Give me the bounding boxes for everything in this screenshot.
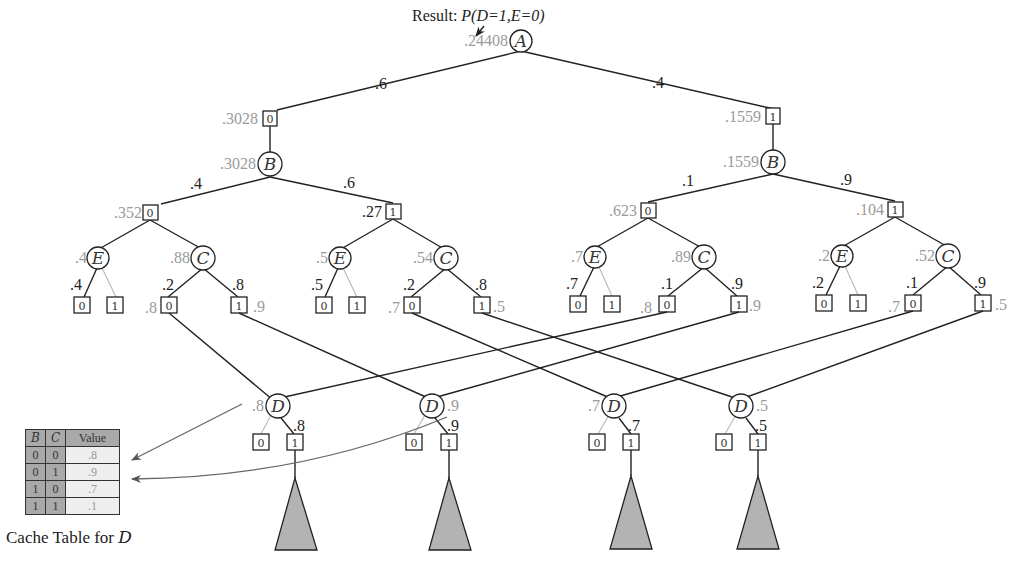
svg-text:E: E <box>91 248 105 268</box>
b-node-left: B .3028 .4 .6 <box>161 152 393 204</box>
svg-text:.7: .7 <box>628 417 640 434</box>
a-branch-1: 1 .1559 <box>725 108 780 150</box>
svg-text:0: 0 <box>594 437 601 450</box>
svg-text:.8: .8 <box>252 397 264 414</box>
svg-text:.7: .7 <box>388 299 400 316</box>
b-branch-box-3: 1 .104 E .2 .2 0 1 C .52 .1 .9 0 .7 1 .5 <box>812 201 1007 315</box>
svg-text:0: 0 <box>166 300 173 313</box>
svg-text:0: 0 <box>258 437 265 450</box>
svg-text:.7: .7 <box>588 397 600 414</box>
svg-text:0: 0 <box>321 300 328 313</box>
svg-text:.8: .8 <box>145 299 157 316</box>
svg-text:.8: .8 <box>475 276 487 293</box>
svg-text:C: C <box>196 248 209 268</box>
cache-table-row: 0 1 .9 <box>26 464 120 481</box>
edge-a0-weight: .6 <box>375 75 387 92</box>
svg-text:.1: .1 <box>906 274 918 291</box>
cache-table-caption: Cache Table for D <box>6 527 132 548</box>
merge-edges <box>169 311 983 400</box>
svg-text:.24408: .24408 <box>464 32 508 49</box>
svg-text:.104: .104 <box>856 201 884 218</box>
svg-text:.27: .27 <box>362 203 382 220</box>
svg-text:.9: .9 <box>447 417 459 434</box>
svg-text:0: 0 <box>575 299 582 312</box>
svg-text:E: E <box>333 248 347 268</box>
d-node-3: D .5 .5 0 1 <box>716 394 779 549</box>
svg-text:.623: .623 <box>609 202 637 219</box>
svg-text:B: B <box>766 152 780 172</box>
svg-text:.9: .9 <box>749 297 761 314</box>
svg-text:.9: .9 <box>974 274 986 291</box>
svg-text:.89: .89 <box>671 248 691 265</box>
svg-text:.6: .6 <box>343 174 355 191</box>
svg-text:.4: .4 <box>190 175 202 192</box>
cache-table-row: 1 1 .1 <box>26 498 120 515</box>
svg-text:.8: .8 <box>232 276 244 293</box>
svg-text:.9: .9 <box>253 298 265 315</box>
svg-text:1: 1 <box>354 300 361 313</box>
svg-text:.5: .5 <box>316 249 328 266</box>
svg-text:.7: .7 <box>571 248 583 265</box>
svg-text:.8: .8 <box>640 299 652 316</box>
svg-text:0: 0 <box>910 298 917 311</box>
svg-text:1: 1 <box>980 298 987 311</box>
d-node-0: D .8 .8 0 1 <box>252 394 317 550</box>
cache-table-row: 1 0 .7 <box>26 481 120 498</box>
svg-text:D: D <box>270 396 285 416</box>
svg-text:.9: .9 <box>731 275 743 292</box>
a-branch-0: 0 .3028 <box>222 110 277 152</box>
svg-text:.5: .5 <box>756 397 768 414</box>
edge-a1-weight: .4 <box>652 74 664 91</box>
svg-text:1: 1 <box>892 204 899 217</box>
svg-text:1: 1 <box>292 437 299 450</box>
svg-text:C: C <box>941 246 954 266</box>
svg-text:0: 0 <box>79 300 86 313</box>
d-node-1: D .9 .9 0 1 <box>406 394 471 550</box>
svg-text:.352: .352 <box>114 204 142 221</box>
svg-text:0: 0 <box>411 437 418 450</box>
svg-text:B: B <box>263 154 277 174</box>
cache-table-header: B C Value <box>26 430 120 447</box>
svg-text:1: 1 <box>628 437 635 450</box>
svg-text:.7: .7 <box>566 275 578 292</box>
svg-text:1: 1 <box>855 298 862 311</box>
cache-table-row: 0 0 .8 <box>26 447 120 464</box>
svg-text:.4: .4 <box>70 276 82 293</box>
svg-text:.3028: .3028 <box>220 155 256 172</box>
root-node-a: A .24408 <box>277 30 774 110</box>
b-branch-box-1: 1 .27 E .5 .5 0 1 C .54 .2 .8 0 .7 1 .5 <box>311 203 505 316</box>
subtree-triangle-3 <box>737 476 779 549</box>
svg-text:1: 1 <box>736 299 743 312</box>
svg-text:1: 1 <box>479 300 486 313</box>
cache-table-d: B C Value 0 0 .8 0 1 .9 1 0 .7 1 1 .1 <box>25 429 120 515</box>
svg-text:.9: .9 <box>447 397 459 414</box>
b-branch-box-0: 0 .352 E .4 .4 0 1 C .88 .2 .8 0 .8 1 .9 <box>70 204 265 316</box>
result-label: Result: P(D=1,E=0) <box>412 7 545 25</box>
svg-text:E: E <box>588 247 602 267</box>
svg-text:.2: .2 <box>403 276 415 293</box>
cache-pointer-arrow-0 <box>132 404 242 460</box>
svg-text:D: D <box>424 396 439 416</box>
svg-text:.1559: .1559 <box>723 153 759 170</box>
d-node-2: D .7 .7 0 1 <box>588 394 652 549</box>
svg-text:1: 1 <box>112 300 119 313</box>
b-branch-box-2: 0 .623 E .7 .7 0 1 C .89 .1 .9 0 .8 1 .9 <box>566 202 761 316</box>
svg-text:C: C <box>439 248 452 268</box>
subtree-triangle-1 <box>429 478 471 550</box>
svg-text:E: E <box>835 246 849 266</box>
svg-text:.5: .5 <box>995 296 1007 313</box>
svg-text:.2: .2 <box>812 274 824 291</box>
svg-text:.5: .5 <box>493 298 505 315</box>
svg-text:1: 1 <box>755 437 762 450</box>
svg-text:1: 1 <box>390 206 397 219</box>
svg-text:D: D <box>733 396 748 416</box>
svg-text:0: 0 <box>267 113 274 126</box>
svg-text:.2: .2 <box>162 276 174 293</box>
svg-text:.4: .4 <box>75 249 87 266</box>
svg-text:.52: .52 <box>915 247 935 264</box>
svg-text:1: 1 <box>446 437 453 450</box>
svg-text:1: 1 <box>609 299 616 312</box>
svg-text:0: 0 <box>721 437 728 450</box>
svg-text:0: 0 <box>147 207 154 220</box>
svg-text:.88: .88 <box>170 249 190 266</box>
